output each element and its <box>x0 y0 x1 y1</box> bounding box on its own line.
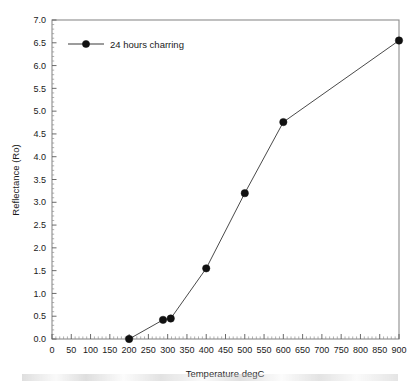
y-tick-label: 4.0 <box>33 152 46 162</box>
y-tick-label: 2.5 <box>33 220 46 230</box>
y-tick-label: 6.5 <box>33 38 46 48</box>
reflectance-vs-temperature-chart: 0.00.51.01.52.02.53.03.54.04.55.05.56.06… <box>0 0 419 385</box>
x-tick-label: 300 <box>160 345 175 355</box>
y-axis-tick-labels: 0.00.51.01.52.02.53.03.54.04.55.05.56.06… <box>33 15 46 344</box>
scan-artifact-text <box>22 374 398 381</box>
x-axis-tick-labels: 0501001502002503003504004505005506006507… <box>49 345 406 355</box>
chart-figure: 0.00.51.01.52.02.53.03.54.04.55.05.56.06… <box>0 0 419 385</box>
y-tick-label: 4.5 <box>33 129 46 139</box>
x-tick-label: 700 <box>314 345 329 355</box>
x-tick-label: 250 <box>141 345 156 355</box>
y-tick-label: 0.5 <box>33 311 46 321</box>
data-point-marker <box>167 315 174 322</box>
y-tick-label: 0.0 <box>33 334 46 344</box>
data-point-marker <box>241 189 248 196</box>
x-tick-label: 350 <box>179 345 194 355</box>
x-tick-label: 500 <box>237 345 252 355</box>
y-tick-label: 3.0 <box>33 197 46 207</box>
x-tick-label: 150 <box>102 345 117 355</box>
x-tick-label: 900 <box>391 345 406 355</box>
x-tick-label: 50 <box>66 345 76 355</box>
x-tick-label: 600 <box>276 345 291 355</box>
legend-label-24-hours-charring: 24 hours charring <box>110 39 184 50</box>
y-tick-label: 1.0 <box>33 289 46 299</box>
y-tick-label: 3.5 <box>33 175 46 185</box>
x-tick-label: 650 <box>295 345 310 355</box>
y-tick-label: 5.5 <box>33 84 46 94</box>
x-tick-label: 850 <box>372 345 387 355</box>
y-tick-label: 6.0 <box>33 61 46 71</box>
x-tick-label: 450 <box>218 345 233 355</box>
x-tick-label: 800 <box>353 345 368 355</box>
x-tick-label: 200 <box>122 345 137 355</box>
data-point-marker <box>125 335 132 342</box>
legend-marker-icon <box>82 40 89 47</box>
x-tick-label: 550 <box>257 345 272 355</box>
x-tick-label: 0 <box>49 345 54 355</box>
data-point-marker <box>159 316 166 323</box>
x-tick-label: 750 <box>334 345 349 355</box>
data-point-marker <box>395 37 402 44</box>
data-point-marker <box>203 265 210 272</box>
y-tick-label: 2.0 <box>33 243 46 253</box>
x-tick-label: 400 <box>199 345 214 355</box>
y-tick-label: 7.0 <box>33 15 46 25</box>
y-axis-title: Reflectance (Ro) <box>10 144 21 215</box>
figure-background <box>0 0 419 385</box>
y-tick-label: 5.0 <box>33 106 46 116</box>
data-point-marker <box>280 118 287 125</box>
y-tick-label: 1.5 <box>33 266 46 276</box>
x-tick-label: 100 <box>83 345 98 355</box>
